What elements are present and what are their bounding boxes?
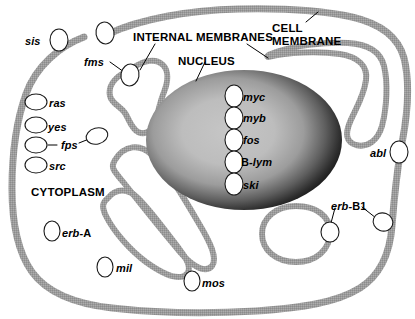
gene-label-yes-stem: yes: [48, 121, 67, 133]
gene-label-ras: ras: [49, 98, 66, 109]
gene-label-abl-stem: abl: [370, 147, 386, 159]
gene-label-mil-stem: mil: [116, 262, 132, 274]
gene-label-fps: fps: [61, 140, 78, 151]
nucleus-gene-label-B-lym-stem: lym: [253, 156, 272, 168]
protein-mos: [184, 271, 200, 291]
gene-label-src-stem: src: [49, 160, 66, 172]
gene-label-erb-B1-stem: erb-: [331, 200, 352, 212]
leader-internal-membranes-right: [247, 44, 268, 58]
protein-yes: [25, 117, 47, 133]
region-label-internal-membranes: INTERNAL MEMBRANES: [133, 32, 273, 44]
gene-label-sis: sis: [25, 36, 41, 47]
protein-src: [25, 157, 47, 173]
protein-myc: [225, 85, 243, 107]
cell-diagram: INTERNAL MEMBRANESCELL MEMBRANENUCLEUSCY…: [0, 0, 415, 319]
internal-membrane-vesicle: [262, 206, 330, 262]
region-label-nucleus: NUCLEUS: [178, 56, 235, 68]
region-label-cytoplasm: CYTOPLASM: [31, 187, 105, 199]
nucleus-gene-label-ski-stem: ski: [243, 179, 259, 191]
nucleus-gene-label-myb-stem: myb: [243, 112, 266, 124]
gene-label-erb-A-stem: erb-: [62, 227, 83, 239]
protein-fos: [225, 129, 243, 151]
nucleus-gene-label-B-lym: B-lym: [241, 157, 272, 168]
nucleus-gene-label-myc: myc: [243, 92, 265, 103]
gene-label-fps-stem: fps: [61, 139, 78, 151]
protein-fms-top: [94, 21, 116, 46]
gene-label-erb-B1: erb-B1: [331, 201, 366, 212]
nucleus-gene-label-fos: fos: [243, 135, 260, 146]
leader-internal-membranes-left: [140, 44, 155, 70]
gene-label-erb-A-suffix: A: [83, 227, 91, 239]
gene-label-erb-B1-suffix: B1: [352, 200, 366, 212]
protein-erb-B1-vesicle: [321, 222, 339, 242]
gene-label-src: src: [49, 161, 66, 172]
protein-ski: [225, 173, 243, 195]
gene-label-yes: yes: [48, 122, 67, 133]
nucleus-gene-label-ski: ski: [243, 180, 259, 191]
protein-fps-free: [84, 125, 109, 146]
protein-mil: [97, 257, 113, 277]
region-label-cell-membrane: CELL MEMBRANE: [272, 22, 341, 48]
nucleus-gene-label-fos-stem: fos: [243, 134, 260, 146]
gene-label-abl: abl: [370, 148, 386, 159]
gene-label-fms-stem: fms: [84, 56, 104, 68]
protein-ras: [25, 94, 47, 110]
gene-label-erb-A: erb-A: [62, 228, 91, 239]
gene-label-sis-stem: sis: [25, 35, 41, 47]
gene-label-fms: fms: [84, 57, 104, 68]
gene-label-mos-stem: mos: [202, 277, 225, 289]
protein-erb-A: [44, 221, 60, 241]
protein-abl: [390, 141, 408, 163]
gene-label-ras-stem: ras: [49, 97, 66, 109]
protein-myb: [225, 107, 243, 129]
protein-fps: [25, 137, 47, 153]
gene-label-mos: mos: [202, 278, 225, 289]
nucleus-gene-label-myc-stem: myc: [243, 91, 265, 103]
nucleus-gene-label-B-lym-prefix: B-: [241, 156, 253, 168]
nucleus-gene-label-myb: myb: [243, 113, 266, 124]
gene-label-mil: mil: [116, 263, 132, 274]
protein-sis: [50, 29, 68, 51]
